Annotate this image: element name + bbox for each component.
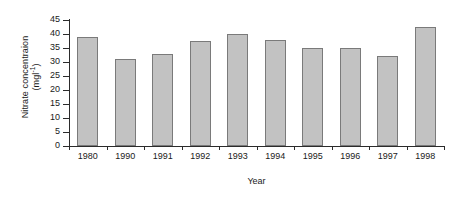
x-axis-tick: [407, 146, 408, 150]
y-axis-tick-label: 25: [40, 71, 60, 81]
y-axis-tick-label: 15: [40, 99, 60, 109]
y-axis-tick: [63, 48, 69, 49]
x-axis-tick: [69, 146, 70, 150]
y-axis-tick: [63, 118, 69, 119]
y-axis-tick-label-text: 30: [40, 57, 60, 66]
y-axis-line: [69, 19, 70, 147]
y-axis-tick-label-text: 40: [40, 29, 60, 38]
bar-1993: [227, 34, 248, 146]
nitrate-concentration-bar-chart: Nitrate concentraion (mgl-1) 05101520253…: [0, 0, 450, 197]
bar-1996: [340, 48, 361, 146]
y-axis-tick-label: 40: [40, 29, 60, 39]
y-axis-tick-label: 5: [40, 127, 60, 137]
bar-1991: [152, 54, 173, 146]
y-axis-tick-label: 10: [40, 113, 60, 123]
y-axis-tick-label-text: 35: [40, 43, 60, 52]
y-axis-tick: [63, 76, 69, 77]
x-axis-title: Year: [69, 176, 444, 186]
y-axis-tick-label: 0: [40, 141, 60, 151]
y-axis-tick-label: 45: [40, 15, 60, 25]
x-axis-tick: [332, 146, 333, 150]
y-axis-tick-label-text: 10: [40, 113, 60, 122]
y-axis-tick-label-text: 5: [40, 127, 60, 136]
y-axis-tick: [63, 90, 69, 91]
x-axis-tick: [144, 146, 145, 150]
y-axis-tick-label-text: 0: [40, 141, 60, 150]
bar-1998: [415, 27, 436, 146]
bar-1992: [190, 41, 211, 146]
x-axis-tick: [182, 146, 183, 150]
bar-1997: [377, 56, 398, 146]
y-axis-unit-exponent: -1: [29, 67, 36, 73]
x-axis-tick: [107, 146, 108, 150]
bar-1994: [265, 40, 286, 146]
y-axis-tick: [63, 20, 69, 21]
x-axis-tick-label: 1998: [403, 152, 447, 161]
y-axis-tick: [63, 132, 69, 133]
y-axis-tick-label-text: 25: [40, 71, 60, 80]
y-axis-tick-label-text: 45: [40, 15, 60, 24]
bar-1980: [77, 37, 98, 146]
x-axis-tick: [369, 146, 370, 150]
y-axis-title-line-1: Nitrate concentraion: [20, 36, 31, 119]
y-axis-tick: [63, 34, 69, 35]
y-axis-tick-label-text: 20: [40, 85, 60, 94]
x-axis-tick: [219, 146, 220, 150]
bar-1995: [302, 48, 323, 146]
y-axis-tick: [63, 62, 69, 63]
x-axis-tick: [444, 146, 445, 150]
y-axis-tick-label-text: 15: [40, 99, 60, 108]
y-axis-tick: [63, 104, 69, 105]
y-axis-tick-label: 20: [40, 85, 60, 95]
x-axis-tick: [257, 146, 258, 150]
y-axis-tick-label: 30: [40, 57, 60, 67]
y-axis-tick-label: 35: [40, 43, 60, 53]
x-axis-tick: [294, 146, 295, 150]
bar-1990: [115, 59, 136, 146]
